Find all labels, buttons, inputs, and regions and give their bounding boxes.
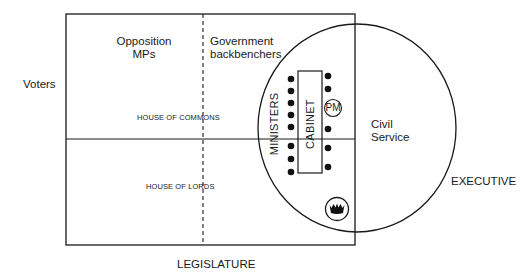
civil-service-line-1: Civil (371, 118, 409, 131)
ministers-label: MINISTERS (268, 89, 280, 159)
minister-dots-left (288, 76, 295, 176)
government-line-1: Government (210, 35, 282, 48)
cabinet-label: CABINET (304, 91, 316, 157)
opposition-line-2: MPs (104, 48, 184, 61)
crown-icon (326, 198, 349, 221)
civil-service-line-2: Service (371, 131, 409, 144)
executive-circle (258, 24, 456, 232)
executive-label: EXECUTIVE (451, 175, 516, 188)
minister-dots-right (325, 73, 332, 171)
legislature-label: LEGISLATURE (177, 258, 255, 271)
pm-label: PM (325, 102, 341, 113)
house-of-lords-label: HOUSE OF LORDS (146, 183, 215, 191)
government-backbenchers-label: Government backbenchers (210, 35, 282, 60)
government-line-2: backbenchers (210, 48, 282, 61)
opposition-mps-label: Opposition MPs (104, 35, 184, 60)
voters-label: Voters (23, 78, 56, 91)
opposition-line-1: Opposition (104, 35, 184, 48)
house-of-commons-label: HOUSE OF COMMONS (137, 114, 220, 122)
civil-service-label: Civil Service (371, 118, 409, 143)
